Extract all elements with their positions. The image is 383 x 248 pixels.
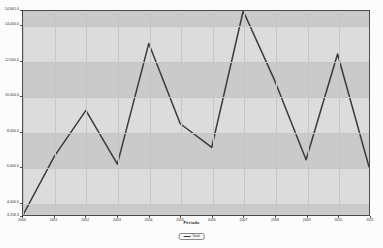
vertical-gridline: [86, 11, 87, 215]
horizontal-gridline: [23, 62, 369, 63]
x-axis-tick-mark: [54, 216, 55, 218]
y-axis-tick-label: 10,000.0: [5, 94, 19, 97]
y-axis-tick-label: 6,000.0: [7, 166, 19, 169]
vertical-gridline: [181, 11, 182, 215]
x-axis-tick-mark: [243, 216, 244, 218]
x-axis-tick-mark: [149, 216, 150, 218]
y-axis: 14,841.014,000.012,000.010,000.08,000.06…: [0, 0, 22, 226]
x-axis-tick-mark: [85, 216, 86, 218]
vertical-gridline: [213, 11, 214, 215]
line-series-total: [23, 11, 369, 215]
x-axis-tick-mark: [117, 216, 118, 218]
horizontal-gridline: [23, 97, 369, 98]
horizontal-gridline: [23, 133, 369, 134]
plot-area: [22, 10, 370, 216]
series-line-total: [23, 11, 369, 215]
y-axis-tick-label: 12,000.0: [5, 59, 19, 62]
vertical-gridline: [23, 11, 24, 215]
x-axis-tick-mark: [212, 216, 213, 218]
legend-line-swatch: [183, 236, 190, 237]
chart-legend[interactable]: Total: [178, 233, 205, 240]
horizontal-gridline: [23, 26, 369, 27]
horizontal-gridline: [23, 204, 369, 205]
y-axis-tick-label: 4,000.0: [7, 201, 19, 204]
vertical-gridline: [276, 11, 277, 215]
vertical-gridline: [339, 11, 340, 215]
legend-label-total: Total: [192, 235, 200, 238]
vertical-gridline: [244, 11, 245, 215]
vertical-gridline: [150, 11, 151, 215]
chart-container: 14,841.014,000.012,000.010,000.08,000.06…: [0, 0, 383, 248]
y-axis-tick-label: 14,000.0: [5, 23, 19, 26]
x-axis-tick-mark: [307, 216, 308, 218]
x-axis-tick-mark: [180, 216, 181, 218]
x-axis-tick-mark: [338, 216, 339, 218]
x-axis-tick-mark: [22, 216, 23, 218]
y-axis-tick-label: 8,000.0: [7, 130, 19, 133]
x-axis-title: Periodo: [0, 221, 383, 225]
y-axis-tick-label: 14,841.0: [5, 8, 19, 11]
vertical-gridline: [118, 11, 119, 215]
vertical-gridline: [308, 11, 309, 215]
x-axis-tick-mark: [370, 216, 371, 218]
horizontal-gridline: [23, 168, 369, 169]
x-axis-tick-mark: [275, 216, 276, 218]
vertical-gridline: [55, 11, 56, 215]
